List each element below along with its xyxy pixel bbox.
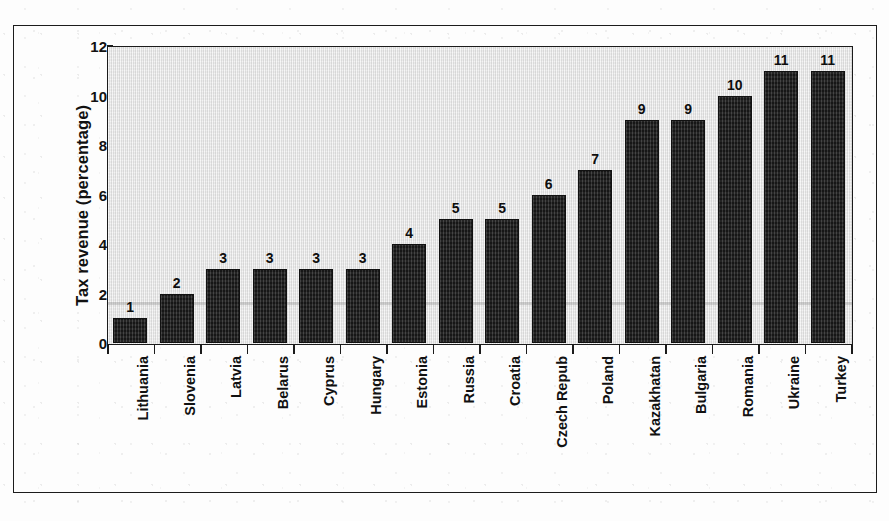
x-tick-mark (619, 345, 621, 354)
x-axis-label: Bulgaria (694, 356, 708, 486)
x-tick-mark (805, 345, 807, 354)
y-tick-label: 8 (73, 137, 107, 154)
x-tick-mark (386, 345, 388, 354)
x-axis-label: Belarus (276, 356, 290, 486)
y-tick-label: 6 (73, 186, 107, 203)
y-tick-label: 12 (73, 38, 107, 55)
x-axis-label: Lithuania (136, 356, 150, 486)
y-tick-label: 10 (73, 87, 107, 104)
x-axis-label: Russia (462, 356, 476, 486)
x-tick-mark (851, 345, 853, 354)
x-axis-label: Slovenia (183, 356, 197, 486)
x-axis-label: Romania (741, 356, 755, 486)
plot-area (107, 46, 853, 345)
x-tick-mark (665, 345, 667, 354)
x-axis-label: Hungary (369, 356, 383, 486)
y-tick-label: 0 (73, 335, 107, 352)
x-axis-label: Czech Repub (555, 356, 569, 486)
x-axis-label: Cyprus (322, 356, 336, 486)
x-axis-category-labels: LithuaniaSloveniaLatviaBelarusCyprusHung… (107, 356, 851, 486)
x-tick-mark (758, 345, 760, 354)
x-axis-label: Kazakhatan (648, 356, 662, 486)
x-tick-mark (293, 345, 295, 354)
x-tick-mark (572, 345, 574, 354)
x-tick-mark (340, 345, 342, 354)
x-axis-ticks (107, 345, 853, 354)
x-axis-label: Ukraine (787, 356, 801, 486)
x-axis-label: Croatia (508, 356, 522, 486)
bar-chart-figure: Tax revenue (percentage) 024681012 12333… (0, 0, 889, 521)
y-tick-label: 4 (73, 236, 107, 253)
y-tick-label: 2 (73, 285, 107, 302)
x-tick-mark (107, 345, 109, 354)
x-tick-mark (200, 345, 202, 354)
y-axis-ticks: 024681012 (67, 46, 107, 343)
x-tick-mark (526, 345, 528, 354)
x-tick-mark (433, 345, 435, 354)
x-axis-label: Poland (601, 356, 615, 486)
scan-artifact-band (108, 302, 852, 305)
x-axis-label: Latvia (229, 356, 243, 486)
x-tick-mark (479, 345, 481, 354)
x-axis-label: Estonia (415, 356, 429, 486)
x-tick-mark (154, 345, 156, 354)
x-tick-mark (247, 345, 249, 354)
x-tick-mark (712, 345, 714, 354)
x-axis-label: Turkey (834, 356, 848, 486)
